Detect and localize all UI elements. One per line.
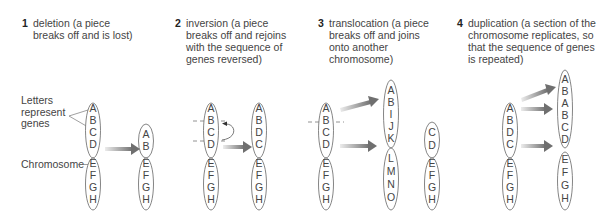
svg-text:H: H [322, 193, 330, 205]
arrow-icon [521, 140, 553, 152]
svg-text:A: A [506, 102, 513, 114]
svg-text:H: H [506, 193, 514, 205]
svg-text:D: D [89, 138, 97, 150]
panel-inversion: A B C D E F G H A B D C E F G H [193, 102, 267, 210]
panel-duplication: A B D C E F G H A B A B C [503, 70, 573, 210]
svg-text:F: F [507, 169, 513, 181]
svg-text:C: C [322, 126, 330, 138]
chromosome-original: A B D C E F G H [503, 102, 518, 210]
svg-text:H: H [255, 193, 263, 205]
svg-text:H: H [89, 193, 97, 205]
svg-text:A: A [561, 73, 568, 85]
svg-text:G: G [322, 181, 330, 193]
chromosome-original: A B C D E F G H [319, 102, 334, 210]
svg-text:B: B [322, 114, 329, 126]
chromosome-donor: C D E F G H [425, 122, 440, 210]
svg-text:E: E [506, 157, 513, 169]
rotate-arrow-icon [222, 122, 234, 141]
arrow-icon [340, 96, 379, 112]
chromosome-recipient: A B I J K L M N O [384, 80, 399, 210]
svg-text:A: A [255, 102, 262, 114]
arrow-icon [340, 140, 377, 152]
svg-text:H: H [207, 193, 215, 205]
svg-text:G: G [142, 181, 150, 193]
svg-text:C: C [506, 138, 514, 150]
svg-text:E: E [142, 157, 149, 169]
svg-text:F: F [429, 169, 435, 181]
svg-text:I: I [390, 108, 393, 120]
svg-text:E: E [322, 157, 329, 169]
label-chromosome: Chromosome [21, 158, 84, 170]
arrow-icon [521, 84, 556, 102]
svg-text:F: F [323, 169, 329, 181]
svg-text:D: D [506, 126, 514, 138]
svg-text:C: C [89, 126, 97, 138]
svg-text:A: A [387, 84, 394, 96]
chromosome-after-duplication: A B A B C D E F G H [558, 70, 573, 210]
svg-text:E: E [255, 157, 262, 169]
svg-text:F: F [143, 169, 149, 181]
svg-text:K: K [387, 132, 394, 144]
arrow-icon [521, 103, 553, 115]
svg-text:B: B [142, 140, 149, 152]
svg-text:A: A [89, 102, 96, 114]
arrow-icon [105, 143, 140, 155]
svg-text:F: F [208, 169, 214, 181]
svg-text:O: O [387, 191, 395, 203]
label-letters-represent-genes: Letters represent genes [21, 94, 68, 129]
svg-text:B: B [561, 109, 568, 121]
svg-text:M: M [387, 165, 396, 177]
svg-text:C: C [428, 126, 436, 138]
arrow-icon [223, 141, 252, 153]
panel-translocation: A B C D E F G H A B I J K L M N [308, 80, 440, 210]
svg-text:E: E [207, 157, 214, 169]
svg-text:B: B [506, 114, 513, 126]
svg-text:C: C [255, 138, 263, 150]
svg-text:E: E [561, 153, 568, 165]
svg-text:E: E [428, 157, 435, 169]
chromosome-original: A B C D E F G H [86, 102, 101, 210]
chromosome-after-deletion: A B E F G H [139, 124, 154, 210]
svg-text:D: D [561, 133, 569, 145]
svg-text:J: J [388, 120, 393, 132]
svg-text:A: A [207, 102, 214, 114]
svg-text:D: D [428, 139, 436, 151]
svg-text:F: F [256, 169, 262, 181]
svg-text:B: B [387, 96, 394, 108]
svg-text:A: A [561, 97, 568, 109]
chromosome-after-inversion: A B D C E F G H [252, 102, 267, 210]
svg-text:H: H [428, 193, 436, 205]
svg-text:N: N [387, 178, 395, 190]
svg-text:H: H [142, 193, 150, 205]
svg-text:G: G [561, 179, 569, 191]
svg-text:B: B [255, 114, 262, 126]
svg-text:C: C [207, 126, 215, 138]
svg-text:B: B [89, 114, 96, 126]
chromosome-original: A B C D E F G H [204, 102, 219, 210]
svg-text:D: D [207, 138, 215, 150]
svg-text:H: H [561, 192, 569, 204]
svg-text:F: F [90, 169, 96, 181]
svg-text:D: D [322, 138, 330, 150]
svg-text:G: G [89, 181, 97, 193]
panel-deletion: Letters represent genes Chromosome A B C… [21, 94, 154, 210]
svg-text:G: G [207, 181, 215, 193]
svg-text:D: D [255, 126, 263, 138]
svg-text:A: A [142, 128, 149, 140]
svg-text:F: F [562, 166, 568, 178]
svg-text:E: E [89, 157, 96, 169]
svg-text:C: C [561, 121, 569, 133]
mutation-diagram: Letters represent genes Chromosome A B C… [0, 0, 599, 213]
leader-line-genes [69, 110, 88, 127]
svg-text:B: B [207, 114, 214, 126]
svg-text:G: G [255, 181, 263, 193]
svg-text:B: B [561, 85, 568, 97]
svg-text:G: G [428, 181, 436, 193]
svg-text:G: G [506, 181, 514, 193]
svg-text:L: L [388, 152, 394, 164]
svg-text:A: A [322, 102, 329, 114]
